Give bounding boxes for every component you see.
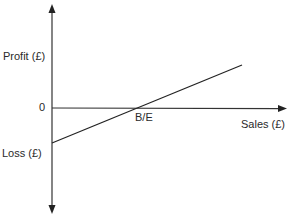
- y-axis-down-arrow-icon: [49, 205, 56, 214]
- loss-axis-label: Loss (£): [2, 147, 42, 159]
- zero-label: 0: [39, 101, 45, 113]
- profit-axis-label: Profit (£): [3, 50, 45, 62]
- x-axis-right-arrow-icon: [278, 105, 287, 112]
- sales-axis-label: Sales (£): [241, 118, 285, 130]
- break-even-label: B/E: [135, 111, 153, 123]
- y-axis-up-arrow-icon: [49, 4, 56, 13]
- profit-line: [52, 65, 242, 143]
- x-axis: [52, 108, 280, 109]
